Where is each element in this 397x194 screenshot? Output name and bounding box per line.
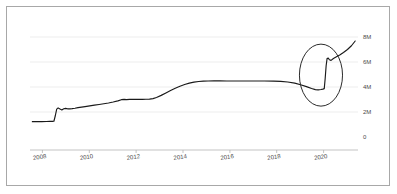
- y-axis-tick-labels: 02M4M6M8M: [363, 34, 371, 140]
- x-tick-label-2014: 2014: [173, 153, 188, 161]
- x-tick-label-2018: 2018: [267, 153, 282, 161]
- x-tick-label-2008: 2008: [33, 153, 48, 161]
- y-tick-label-8M: 8M: [363, 34, 371, 40]
- data-series-line: [32, 41, 355, 122]
- x-tick-label-2016: 2016: [220, 153, 235, 161]
- chart-plot-area: 02M4M6M8M 2008201020122014201620182020: [0, 0, 397, 194]
- x-tick-label-2012: 2012: [126, 153, 141, 161]
- x-axis: [30, 150, 358, 153]
- y-tick-label-0: 0: [363, 134, 367, 140]
- x-tick-label-2010: 2010: [79, 153, 94, 161]
- x-axis-tick-labels: 2008201020122014201620182020: [33, 153, 329, 161]
- y-tick-label-4M: 4M: [363, 84, 371, 90]
- chart-figure: 02M4M6M8M 2008201020122014201620182020: [0, 0, 397, 194]
- highlight-circle-annotation: [299, 44, 342, 106]
- y-tick-label-6M: 6M: [363, 59, 371, 65]
- x-tick-label-2020: 2020: [314, 153, 329, 161]
- y-tick-label-2M: 2M: [363, 109, 371, 115]
